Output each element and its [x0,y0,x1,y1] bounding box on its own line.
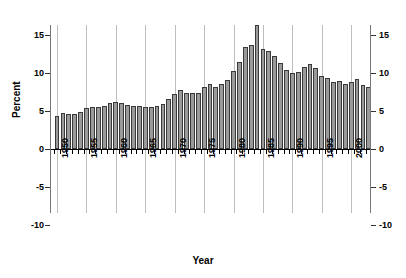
x-tick-mark [136,150,137,154]
bar [261,49,266,149]
bar [308,64,313,149]
y-tick-mark-left [45,187,50,188]
x-tick-mark [107,150,108,154]
bar [284,70,289,149]
bar [343,84,348,149]
y-tick-mark-left [45,73,50,74]
x-tick-mark [260,150,261,154]
x-axis-title: Year [0,256,406,266]
x-tick-mark [219,150,220,154]
y-tick-mark-right [371,111,376,112]
x-tick-mark [342,150,343,154]
y-tick-mark-left [45,149,50,150]
x-tick-label: 1975 [208,138,217,158]
y-tick-label-left: -5 [36,183,44,192]
x-tick-mark [195,150,196,154]
bar [319,76,324,149]
bar [249,45,254,149]
x-tick-mark [313,150,314,154]
bar [225,80,230,149]
x-tick-mark [254,150,255,154]
bar [78,112,83,149]
chart-figure: 151510105500-5-5-10-10 19501955196019651… [0,0,406,278]
x-tick-mark [166,150,167,154]
y-tick-mark-right [371,187,376,188]
y-axis-left [50,25,51,213]
x-tick-label: 1960 [120,138,129,158]
x-tick-mark [336,150,337,154]
x-tick-mark [54,150,55,154]
y-tick-mark-left [45,111,50,112]
y-tick-label-left: -10 [31,221,44,230]
y-tick-label-right: 10 [379,69,389,78]
y-tick-label-right: -10 [379,221,392,230]
bar [202,87,207,149]
bar [108,103,113,149]
x-tick-label: 1980 [238,138,247,158]
x-tick-mark [307,150,308,154]
x-tick-mark [366,150,367,154]
x-tick-mark [201,150,202,154]
x-tick-label: 2000 [355,138,364,158]
bar [172,94,177,149]
y-tick-label-right: 15 [379,31,389,40]
bar [231,71,236,149]
x-tick-mark [101,150,102,154]
y-tick-label-left: 15 [34,31,44,40]
y-tick-mark-right [371,73,376,74]
bar [190,93,195,149]
bar [161,104,166,149]
bar [272,56,277,149]
y-tick-label-right: 5 [379,107,384,116]
y-tick-label-left: 5 [39,107,44,116]
bar [196,93,201,149]
x-tick-mark [231,150,232,154]
bar [243,47,248,149]
x-tick-mark [172,150,173,154]
x-tick-mark [84,150,85,154]
x-tick-label: 1970 [179,138,188,158]
bar [302,67,307,149]
y-tick-mark-right [371,35,376,36]
bar [266,51,271,149]
bar [219,84,224,149]
bar [337,81,342,149]
x-tick-mark [284,150,285,154]
x-tick-mark [348,150,349,154]
y-tick-label-left: 0 [39,145,44,154]
bar [131,106,136,149]
bar [313,68,318,149]
y-axis-title: Percent [12,81,22,118]
x-tick-label: 1995 [326,138,335,158]
y-tick-mark-right [371,149,376,150]
bar [237,62,242,149]
x-tick-label: 1985 [267,138,276,158]
bar [55,116,60,149]
x-tick-mark [142,150,143,154]
bar [137,106,142,149]
x-tick-mark [78,150,79,154]
x-tick-mark [289,150,290,154]
x-tick-mark [131,150,132,154]
bar [72,114,77,149]
bar [113,102,118,149]
bar [255,25,260,149]
y-tick-mark-right [371,225,376,226]
y-tick-label-right: 0 [379,145,384,154]
bar [278,63,283,149]
x-tick-mark [225,150,226,154]
x-tick-mark [319,150,320,154]
x-tick-label: 1955 [90,138,99,158]
x-tick-mark [278,150,279,154]
y-tick-mark-left [45,35,50,36]
x-tick-label: 1990 [296,138,305,158]
y-axis-right [370,25,371,213]
x-tick-label: 1965 [149,138,158,158]
y-tick-label-right: -5 [379,183,387,192]
y-tick-label-left: 10 [34,69,44,78]
bar [143,107,148,149]
bar [166,99,171,149]
x-tick-mark [248,150,249,154]
x-tick-mark [72,150,73,154]
x-tick-mark [160,150,161,154]
